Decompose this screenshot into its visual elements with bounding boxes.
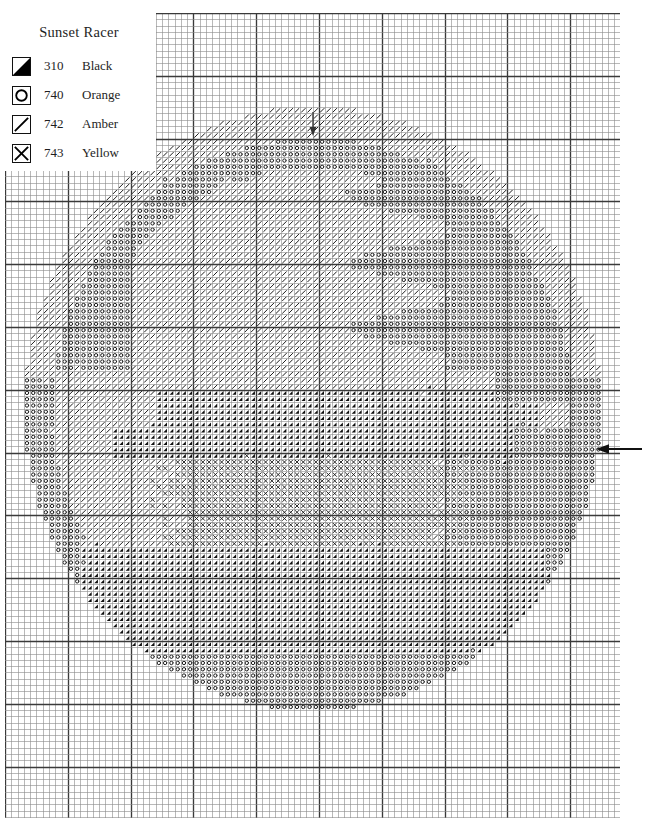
legend-code: 742: [44, 116, 64, 132]
legend-panel: Sunset Racer 310 Black 740 Orange 742 Am…: [0, 0, 156, 171]
legend-name: Black: [82, 58, 112, 74]
legend-row-310: 310 Black: [12, 57, 152, 79]
legend-row-743: 743 Yellow: [12, 144, 152, 166]
filled-triangle-icon: [12, 57, 31, 76]
legend-name: Amber: [82, 116, 118, 132]
legend-row-742: 742 Amber: [12, 115, 152, 137]
legend-code: 743: [44, 145, 64, 161]
arrow-down-icon: [308, 112, 318, 137]
slash-icon: [12, 115, 31, 134]
legend-row-740: 740 Orange: [12, 86, 152, 108]
legend-name: Yellow: [82, 145, 119, 161]
cross-icon: [12, 144, 31, 163]
legend-code: 310: [44, 58, 64, 74]
legend-name: Orange: [82, 87, 120, 103]
legend-code: 740: [44, 87, 64, 103]
arrow-left-icon: [596, 443, 642, 455]
chart-title: Sunset Racer: [6, 24, 152, 41]
circle-icon: [12, 86, 31, 105]
